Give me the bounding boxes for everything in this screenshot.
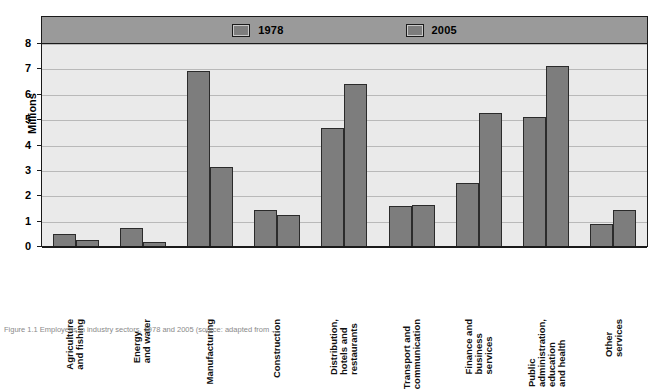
- bar-group: [580, 44, 647, 246]
- bar-2005[interactable]: [613, 210, 636, 246]
- bar-2005[interactable]: [412, 205, 435, 246]
- bar-groups: [42, 44, 647, 246]
- category-label-cell: Transport andcommunication: [378, 249, 445, 321]
- bar-2005[interactable]: [210, 167, 233, 246]
- category-label-cell: Finance andbusinessservices: [446, 249, 513, 321]
- bar-group: [445, 44, 512, 246]
- category-label-line: and health: [557, 340, 567, 388]
- category-label-cell: Distribution,hotels andrestaurants: [311, 249, 378, 321]
- y-tick-label-3: 3: [11, 164, 31, 176]
- y-tick-label-5: 5: [11, 113, 31, 125]
- legend-label: 1978: [258, 24, 283, 36]
- bar-group: [378, 44, 445, 246]
- legend-item-1978: 1978: [232, 24, 283, 37]
- y-tick-label-8: 8: [11, 37, 31, 49]
- category-label-line: services: [484, 336, 494, 374]
- legend-item-2005: 2005: [406, 24, 457, 37]
- bar-group: [42, 44, 109, 246]
- bar-1978[interactable]: [187, 71, 210, 246]
- bar-1978[interactable]: [53, 234, 76, 246]
- plot-area: [42, 44, 647, 246]
- bar-2005[interactable]: [143, 242, 166, 246]
- bar-1978[interactable]: [590, 224, 613, 246]
- y-tick-label-1: 1: [11, 215, 31, 227]
- category-label-cell: Otherservices: [581, 249, 648, 321]
- y-tick-label-2: 2: [11, 189, 31, 201]
- bar-group: [176, 44, 243, 246]
- gridline-0: [42, 247, 647, 248]
- bar-group: [244, 44, 311, 246]
- category-axis-labels: Agricultureand fishingEnergyand waterMan…: [41, 249, 648, 321]
- figure-caption: Figure 1.1 Employees in industry sectors…: [4, 325, 644, 334]
- category-label-cell: Manufacturing: [176, 249, 243, 321]
- y-tick-label-7: 7: [11, 62, 31, 74]
- bar-2005[interactable]: [76, 240, 99, 246]
- legend-swatch-icon: [232, 24, 250, 37]
- legend-label: 2005: [432, 24, 457, 36]
- bar-2005[interactable]: [277, 215, 300, 246]
- bar-1978[interactable]: [523, 117, 546, 246]
- bar-2005[interactable]: [479, 113, 502, 246]
- bar-group: [311, 44, 378, 246]
- category-label-cell: Agricultureand fishing: [41, 249, 108, 321]
- bar-group: [513, 44, 580, 246]
- y-tick-label-6: 6: [11, 88, 31, 100]
- chart-legend: 19782005: [42, 17, 647, 44]
- y-tick-label-0: 0: [11, 240, 31, 252]
- bar-1978[interactable]: [254, 210, 277, 246]
- legend-swatch-icon: [406, 24, 424, 37]
- bar-2005[interactable]: [344, 84, 367, 246]
- bar-1978[interactable]: [321, 128, 344, 247]
- category-label-cell: Construction: [243, 249, 310, 321]
- chart-plot-frame: 19782005: [41, 16, 648, 247]
- y-tick-label-4: 4: [11, 139, 31, 151]
- category-label-cell: Energyand water: [108, 249, 175, 321]
- bar-1978[interactable]: [120, 228, 143, 246]
- bar-group: [109, 44, 176, 246]
- bar-1978[interactable]: [389, 206, 412, 246]
- bar-2005[interactable]: [546, 66, 569, 246]
- category-label-cell: Publicadministration,educationand health: [513, 249, 580, 321]
- bar-1978[interactable]: [456, 183, 479, 246]
